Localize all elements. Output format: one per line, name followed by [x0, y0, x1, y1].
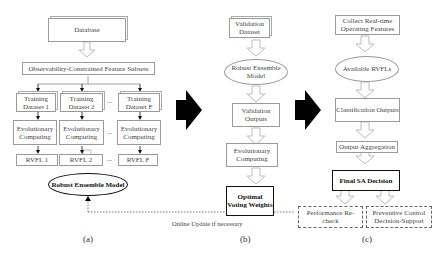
evolutionary-computing-b: Evolutionary Computing [226, 143, 278, 167]
caption-a: (a) [83, 234, 93, 244]
preventive-control: Preventive Control Decision-Support [366, 206, 432, 228]
training-dataset-2: Training Dataset 2 [60, 93, 103, 112]
ellipsis: ... [107, 155, 112, 162]
ellipsis: ... [107, 97, 112, 104]
rvfl-1: RVFL 1 [16, 154, 58, 166]
feedback-label: Online Update if necessary [172, 220, 243, 227]
validation-dataset: Validation Dataset [229, 18, 270, 38]
available-rvfls: Available RVFLs [335, 56, 399, 82]
classification-outputs: Classification Outputs [335, 98, 400, 122]
evolutionary-computing-f: Evolutionary Computing [117, 120, 161, 145]
training-dataset-1: Training Dataset 1 [16, 93, 56, 112]
evolutionary-computing-1: Evolutionary Computing [13, 120, 57, 145]
training-dataset-f: Training Dataset F [118, 93, 160, 112]
performance-recheck: Performance Re-check [298, 206, 363, 228]
caption-b: (b) [240, 234, 251, 244]
validation-outputs: Validation Outputs [232, 103, 280, 127]
final-sa-decision: Final SA Decision [332, 170, 400, 191]
evolutionary-computing-2: Evolutionary Computing [59, 120, 104, 145]
database-box: Database [48, 18, 126, 42]
optimal-voting-weights: Optimal Voting Weights [226, 186, 274, 216]
robust-ensemble-model-b: Robust Ensemble Model [224, 59, 288, 85]
robust-ensemble-model: Robust Ensemble Model [48, 173, 128, 196]
output-aggregation: Output Aggregation [336, 141, 398, 153]
feature-subsets-box: Observability-Constrained Feature Subset… [22, 62, 155, 75]
rvfl-2: RVFL 2 [59, 154, 103, 166]
ellipsis: ... [107, 128, 112, 135]
caption-c: (c) [362, 234, 372, 244]
rvfl-f: RVFL F [118, 154, 158, 166]
collect-features: Collect Real-time Operating Features [335, 15, 400, 35]
